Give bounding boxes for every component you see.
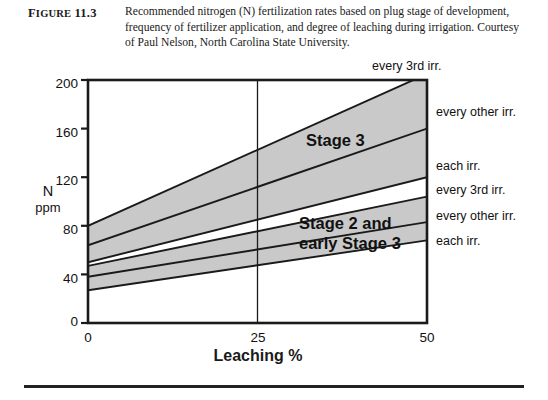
series-label-stage3-each-irr: each irr. [436, 159, 480, 173]
x-tick-label-50: 50 [407, 330, 447, 345]
annotation-stage-2-and: Stage 2 and [299, 214, 392, 233]
footer-divider-rule [24, 385, 524, 388]
y-tick-label-160: 160 [38, 125, 78, 140]
annotation-early-stage-3: early Stage 3 [299, 234, 401, 253]
annotation-stage-3: Stage 3 [306, 131, 365, 150]
x-tick-label-25: 25 [238, 330, 278, 345]
y-tick-label-40: 40 [38, 271, 78, 286]
series-label-stage2-every-other-irr: every other irr. [436, 209, 516, 223]
y-tick-label-200: 200 [38, 76, 78, 91]
y-axis-title-line1: N [26, 183, 70, 199]
series-label-stage2-every-3rd-irr: every 3rd irr. [436, 183, 505, 197]
x-tick-label-0: 0 [68, 330, 108, 345]
y-tick-label-0: 0 [38, 314, 78, 329]
y-tick-label-80: 80 [38, 222, 78, 237]
series-label-stage3-every-3rd-irr: every 3rd irr. [372, 59, 441, 73]
chart-figure: 200 160 120 80 40 0 N ppm 0 25 50 Leachi… [0, 0, 548, 400]
x-axis-title: Leaching % [148, 347, 368, 365]
y-axis-title-line2: ppm [20, 200, 76, 215]
series-label-stage2-each-irr: each irr. [436, 234, 480, 248]
series-label-stage3-every-other-irr: every other irr. [436, 105, 516, 119]
